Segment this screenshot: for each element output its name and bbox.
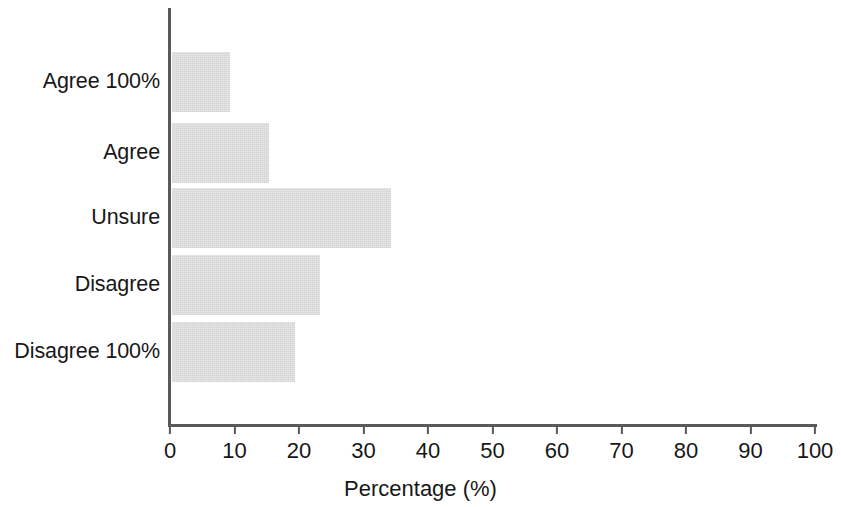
bar-chart: Agree 100%AgreeUnsureDisagreeDisagree 10… bbox=[0, 0, 841, 507]
bar bbox=[172, 322, 295, 382]
x-tick-mark bbox=[427, 425, 429, 434]
x-tick-label: 90 bbox=[738, 440, 762, 462]
x-tick-mark bbox=[749, 425, 751, 434]
bar bbox=[172, 123, 269, 183]
x-tick-mark bbox=[298, 425, 300, 434]
x-tick-label: 80 bbox=[674, 440, 698, 462]
x-tick-label: 50 bbox=[480, 440, 504, 462]
x-tick-mark bbox=[556, 425, 558, 434]
x-tick-label: 20 bbox=[287, 440, 311, 462]
bar bbox=[172, 188, 391, 248]
x-tick-label: 70 bbox=[609, 440, 633, 462]
x-tick-mark bbox=[685, 425, 687, 434]
x-tick-mark bbox=[620, 425, 622, 434]
x-tick-mark bbox=[169, 425, 171, 434]
category-label: Agree bbox=[103, 142, 160, 164]
category-label: Disagree bbox=[75, 274, 160, 296]
x-tick-mark bbox=[814, 425, 816, 434]
bar bbox=[172, 52, 230, 112]
x-tick-label: 30 bbox=[351, 440, 375, 462]
x-tick-mark bbox=[362, 425, 364, 434]
x-tick-label: 10 bbox=[222, 440, 246, 462]
category-label: Agree 100% bbox=[43, 71, 160, 93]
category-label: Unsure bbox=[91, 207, 160, 229]
x-tick-mark bbox=[491, 425, 493, 434]
x-axis-title: Percentage (%) bbox=[0, 478, 841, 500]
x-tick-label: 0 bbox=[164, 440, 176, 462]
bar bbox=[172, 255, 320, 315]
plot-area bbox=[170, 8, 815, 425]
x-tick-label: 100 bbox=[797, 440, 834, 462]
x-tick-label: 60 bbox=[545, 440, 569, 462]
x-tick-label: 40 bbox=[416, 440, 440, 462]
x-tick-mark bbox=[233, 425, 235, 434]
category-label: Disagree 100% bbox=[14, 341, 160, 363]
